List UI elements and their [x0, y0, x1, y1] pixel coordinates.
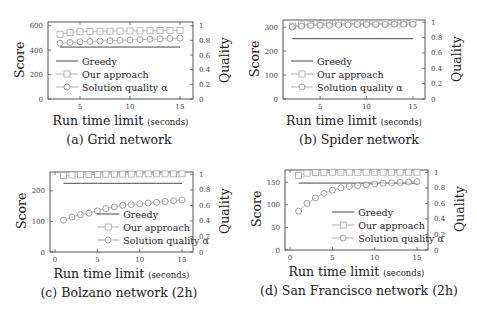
circle-marker: [61, 217, 67, 223]
square-marker: [87, 29, 93, 35]
y-right-tick-label: 0.6: [199, 202, 211, 210]
y-left-tick-label: 200: [30, 71, 43, 79]
panel-grid-network: 020040060000.20.40.60.8151015GreedyOur a…: [0, 0, 238, 159]
legend-label: Solution quality α: [82, 82, 168, 93]
square-marker: [179, 171, 185, 177]
circle-marker: [410, 21, 416, 27]
circle-marker: [179, 197, 185, 203]
y-left-tick-label: 100: [32, 218, 45, 226]
square-marker: [162, 171, 168, 177]
circle-marker: [373, 22, 379, 28]
circle-marker: [94, 208, 100, 214]
square-marker: [67, 29, 73, 35]
circle-marker: [111, 204, 117, 210]
circle-marker: [382, 22, 388, 28]
y-left-tick-label: 100: [267, 201, 280, 209]
y-left-tick-label: 0: [41, 249, 45, 257]
y-left-tick-label: 300: [265, 24, 278, 32]
square-marker: [414, 169, 420, 175]
y-right-axis-label: Quality: [217, 37, 232, 83]
figure-caption: (a) Grid network: [0, 132, 238, 147]
y-left-axis-label: Score: [249, 191, 264, 227]
circle-marker: [355, 183, 361, 189]
y-left-tick-label: 0: [276, 247, 280, 255]
square-marker: [69, 172, 75, 178]
y-right-tick-label: 0.4: [199, 66, 211, 74]
y-right-axis-label: Quality: [449, 36, 464, 82]
square-marker: [338, 169, 344, 175]
x-tick-label: 15: [176, 103, 185, 111]
circle-marker: [289, 24, 295, 30]
legend-label: Our approach: [358, 220, 425, 231]
circle-marker: [336, 22, 342, 28]
series-square: [57, 27, 183, 37]
x-tick-label: 0: [53, 256, 57, 264]
legend-label: Greedy: [358, 207, 393, 218]
x-tick-label: 5: [95, 256, 99, 264]
y-left-tick-label: 400: [30, 47, 43, 55]
circle-marker: [354, 22, 360, 28]
circle-marker: [308, 23, 314, 29]
x-axis-label: Run time limit (seconds): [50, 266, 193, 281]
square-marker: [363, 169, 369, 175]
circle-marker: [77, 212, 83, 218]
y-right-tick-label: 0: [199, 96, 203, 104]
legend-circle-icon: [340, 235, 346, 241]
circle-marker: [397, 179, 403, 185]
y-right-axis-label: Quality: [452, 186, 467, 232]
y-left-tick-label: 0: [274, 96, 278, 104]
square-marker: [154, 171, 160, 177]
circle-marker: [107, 38, 113, 44]
square-marker: [346, 169, 352, 175]
square-marker: [177, 27, 183, 33]
circle-marker: [128, 202, 134, 208]
y-right-tick-label: 0: [434, 247, 438, 255]
panel-spider-network: 010020030000.20.40.60.8151015GreedyOur a…: [240, 0, 477, 159]
square-marker: [107, 28, 113, 34]
circle-marker: [312, 195, 318, 201]
x-axis-label: Run time limit (seconds): [285, 264, 428, 279]
legend-label: Our approach: [82, 69, 149, 80]
y-left-axis-label: Score: [12, 41, 27, 77]
y-right-tick-label: 1: [431, 19, 435, 27]
circle-marker: [389, 180, 395, 186]
circle-marker: [406, 179, 412, 185]
square-marker: [321, 170, 327, 176]
legend-circle-icon: [299, 84, 305, 90]
legend: GreedyOur approachSolution quality α: [56, 56, 168, 93]
y-right-tick-label: 0.6: [199, 52, 211, 60]
x-tick-label: 10: [370, 254, 379, 262]
circle-marker: [154, 199, 160, 205]
y-left-tick-label: 200: [265, 48, 278, 56]
circle-marker: [87, 38, 93, 44]
legend-circle-icon: [64, 84, 70, 90]
square-marker: [137, 28, 143, 34]
square-marker: [61, 173, 67, 179]
y-right-tick-label: 0.8: [434, 184, 445, 192]
square-marker: [111, 171, 117, 177]
x-tick-label: 10: [362, 103, 371, 111]
x-tick-label: 15: [413, 254, 422, 262]
circle-marker: [147, 36, 153, 42]
figure-caption: (c) Bolzano network (2h): [0, 285, 238, 300]
circle-marker: [299, 23, 305, 29]
y-left-tick-label: 600: [30, 22, 43, 30]
y-right-axis-label: Quality: [217, 188, 232, 234]
square-marker: [94, 171, 100, 177]
circle-marker: [69, 214, 75, 220]
y-right-tick-label: 0.4: [199, 217, 211, 225]
legend-square-icon: [299, 71, 305, 77]
square-marker: [127, 28, 133, 34]
circle-marker: [296, 208, 302, 214]
circle-marker: [171, 198, 177, 204]
square-marker: [86, 171, 92, 177]
x-tick-label: 5: [318, 103, 322, 111]
circle-marker: [177, 35, 183, 41]
x-tick-label: 0: [288, 254, 292, 262]
x-tick-label: 15: [178, 256, 187, 264]
square-marker: [329, 169, 335, 175]
panel-bolzano-network: 010020000.20.40.60.81051015GreedyOur app…: [0, 160, 238, 318]
y-right-tick-label: 0: [199, 249, 203, 257]
legend-label: Our approach: [123, 222, 190, 233]
square-marker: [117, 28, 123, 34]
